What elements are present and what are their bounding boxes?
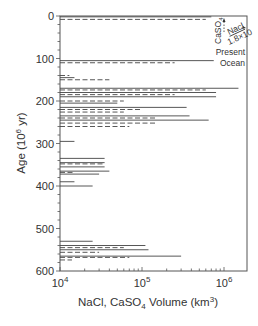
y-axis-title: Age (106 yr) [14, 112, 27, 174]
y-tick-label: 100 [36, 53, 54, 65]
y-tick-label: 500 [36, 223, 54, 235]
y-axis: 0100200300400500600 [36, 10, 60, 277]
x-tick-label: 105 [134, 275, 151, 289]
y-tick-label: 0 [48, 10, 54, 22]
x-axis: 104105106 [52, 267, 233, 289]
evaporite-volume-chart: 0100200300400500600 104105106 Age (106 y… [0, 0, 258, 326]
bars-layer [60, 17, 238, 260]
x-tick-label: 104 [52, 275, 69, 289]
caso4-annotation-label: CaSO4 [213, 17, 224, 44]
y-tick-label: 300 [36, 138, 54, 150]
present-label: Present [216, 47, 246, 57]
y-tick-label: 400 [36, 180, 54, 192]
present-ocean-annotation: CaSO4 Nacl 1.8×10 Present Ocean [213, 17, 254, 68]
y-tick-label: 200 [36, 95, 54, 107]
y-tick-label: 600 [36, 265, 54, 277]
ocean-label: Ocean [220, 58, 245, 68]
x-tick-label: 106 [216, 275, 233, 289]
x-axis-title: NaCl, CaSO4 Volume (km3) [78, 295, 218, 311]
